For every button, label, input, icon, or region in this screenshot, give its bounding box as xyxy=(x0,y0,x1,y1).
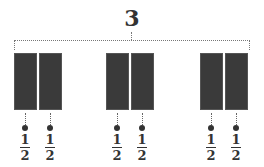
bracket-stem xyxy=(131,32,132,40)
fraction-label: 12 xyxy=(226,113,246,162)
fraction-label: 12 xyxy=(40,113,60,162)
half-block xyxy=(14,53,37,110)
fraction-label: 12 xyxy=(15,113,35,162)
half-block xyxy=(131,53,154,110)
whole-group-1 xyxy=(14,53,62,110)
whole-group-3 xyxy=(200,53,248,110)
fraction-label: 12 xyxy=(107,113,127,162)
dot-icon xyxy=(114,125,120,131)
dot-icon xyxy=(233,125,239,131)
fraction-label: 12 xyxy=(201,113,221,162)
whole-group-2 xyxy=(106,53,154,110)
total-label: 3 xyxy=(0,7,264,29)
dot-icon xyxy=(47,125,53,131)
half-block xyxy=(39,53,62,110)
dot-icon xyxy=(22,125,28,131)
half-block xyxy=(200,53,223,110)
half-block xyxy=(106,53,129,110)
half-block xyxy=(225,53,248,110)
fraction-label: 12 xyxy=(132,113,152,162)
dot-icon xyxy=(139,125,145,131)
bracket xyxy=(14,40,250,50)
dot-icon xyxy=(208,125,214,131)
